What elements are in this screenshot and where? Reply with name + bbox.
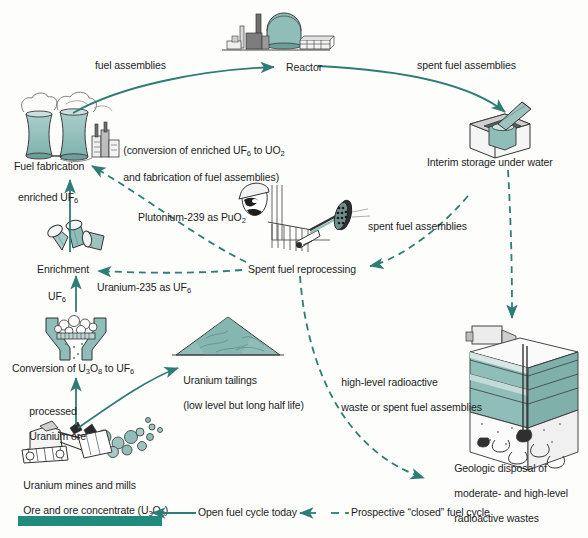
- legend-label-open-cycle: Open fuel cycle today: [198, 506, 297, 519]
- nuclear-fuel-cycle-diagram: Reactor Fuel fabrication (conversion of …: [0, 0, 588, 538]
- legend-label-closed-cycle: Prospective “closed” fuel cycle: [351, 506, 490, 519]
- legend-graphics: [0, 0, 588, 538]
- bottom-accent-bar: [18, 516, 162, 526]
